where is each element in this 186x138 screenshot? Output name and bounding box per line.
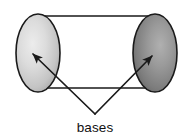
- cylinder-diagram-canvas: bases: [0, 0, 186, 138]
- left-base-ellipse: [16, 14, 60, 92]
- cylinder-diagram-svg: bases: [0, 0, 186, 138]
- bases-label: bases: [77, 120, 114, 135]
- right-base-ellipse: [133, 14, 177, 92]
